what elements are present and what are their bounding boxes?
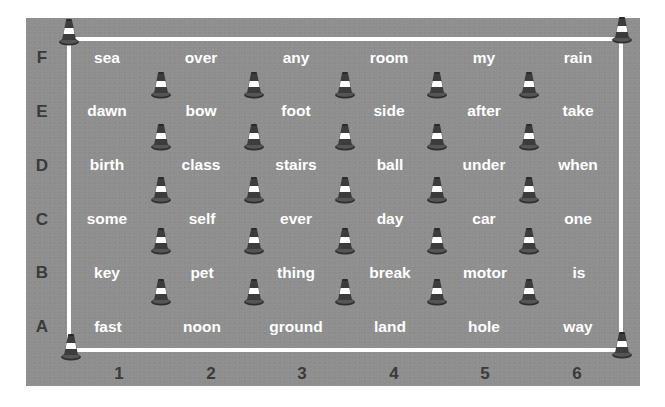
traffic-cone-icon <box>426 71 448 99</box>
col-label-4: 4 <box>382 364 406 384</box>
word-e6: take <box>562 102 593 120</box>
word-f1: sea <box>94 49 120 67</box>
col-label-6: 6 <box>565 364 589 384</box>
word-a6: way <box>563 318 592 336</box>
word-e4: side <box>373 102 404 120</box>
boundary-line-bottom <box>68 348 622 352</box>
traffic-cone-icon <box>426 227 448 255</box>
boundary-line-left <box>67 37 71 352</box>
traffic-cone-icon <box>611 331 633 359</box>
col-label-2: 2 <box>199 364 223 384</box>
word-f3: any <box>283 49 310 67</box>
traffic-cone-icon <box>58 18 80 46</box>
traffic-cone-icon <box>518 71 540 99</box>
traffic-cone-icon <box>150 71 172 99</box>
word-a1: fast <box>94 318 122 336</box>
word-d1: birth <box>90 156 124 174</box>
word-b2: pet <box>190 264 213 282</box>
traffic-cone-icon <box>243 278 265 306</box>
col-label-3: 3 <box>290 364 314 384</box>
word-d4: ball <box>377 156 404 174</box>
traffic-cone-icon <box>518 227 540 255</box>
word-f2: over <box>185 49 218 67</box>
traffic-cone-icon <box>150 227 172 255</box>
traffic-cone-icon <box>243 71 265 99</box>
word-f5: my <box>473 49 495 67</box>
row-label-b: B <box>30 263 54 283</box>
word-b4: break <box>369 264 410 282</box>
word-e1: dawn <box>87 102 127 120</box>
traffic-cone-icon <box>518 176 540 204</box>
boundary-line-top <box>68 37 622 41</box>
word-c6: one <box>564 210 592 228</box>
traffic-cone-icon <box>334 123 356 151</box>
word-d6: when <box>558 156 598 174</box>
traffic-cone-icon <box>518 123 540 151</box>
word-c4: day <box>377 210 404 228</box>
row-label-a: A <box>30 317 54 337</box>
word-c3: ever <box>280 210 312 228</box>
word-f4: room <box>370 49 409 67</box>
word-c1: some <box>87 210 128 228</box>
traffic-cone-icon <box>243 176 265 204</box>
word-a2: noon <box>183 318 221 336</box>
traffic-cone-icon <box>243 227 265 255</box>
word-b6: is <box>573 264 586 282</box>
traffic-cone-icon <box>334 278 356 306</box>
traffic-cone-icon <box>334 176 356 204</box>
word-f6: rain <box>564 49 592 67</box>
boundary-line-right <box>619 37 623 352</box>
traffic-cone-icon <box>60 333 82 361</box>
word-d3: stairs <box>275 156 316 174</box>
word-a4: land <box>374 318 406 336</box>
traffic-cone-icon <box>243 123 265 151</box>
traffic-cone-icon <box>334 227 356 255</box>
word-b3: thing <box>277 264 315 282</box>
row-label-c: C <box>30 210 54 230</box>
word-e3: foot <box>281 102 310 120</box>
word-e5: after <box>467 102 501 120</box>
traffic-cone-icon <box>334 71 356 99</box>
word-a5: hole <box>468 318 500 336</box>
row-label-e: E <box>30 102 54 122</box>
word-a3: ground <box>269 318 322 336</box>
word-c2: self <box>189 210 216 228</box>
word-c5: car <box>472 210 495 228</box>
word-d2: class <box>182 156 221 174</box>
traffic-cone-icon <box>611 16 633 44</box>
word-e2: bow <box>186 102 217 120</box>
col-label-1: 1 <box>107 364 131 384</box>
col-label-5: 5 <box>473 364 497 384</box>
row-label-d: D <box>30 156 54 176</box>
traffic-cone-icon <box>150 278 172 306</box>
traffic-cone-icon <box>426 278 448 306</box>
traffic-cone-icon <box>426 123 448 151</box>
row-label-f: F <box>30 48 54 68</box>
word-b1: key <box>94 264 120 282</box>
word-b5: motor <box>463 264 507 282</box>
word-d5: under <box>462 156 505 174</box>
traffic-cone-icon <box>426 176 448 204</box>
traffic-cone-icon <box>518 278 540 306</box>
traffic-cone-icon <box>150 176 172 204</box>
traffic-cone-icon <box>150 123 172 151</box>
